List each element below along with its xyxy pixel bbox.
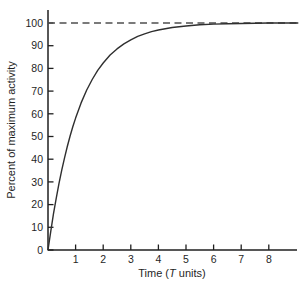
x-axis-title-part1: Time ( bbox=[138, 267, 169, 279]
y-tick-label: 10 bbox=[31, 221, 43, 233]
x-tick-label: 7 bbox=[238, 253, 244, 265]
activity-vs-time-chart: 0102030405060708090100 12345678 Percent … bbox=[0, 0, 301, 290]
y-tick-label: 30 bbox=[31, 176, 43, 188]
activity-curve bbox=[48, 23, 298, 250]
y-tick-label: 40 bbox=[31, 153, 43, 165]
x-axis-ticks: 12345678 bbox=[73, 245, 272, 266]
x-tick-label: 6 bbox=[211, 253, 217, 265]
y-tick-label: 90 bbox=[31, 39, 43, 51]
x-tick-label: 3 bbox=[128, 253, 134, 265]
y-tick-label: 0 bbox=[37, 244, 43, 256]
x-tick-label: 4 bbox=[155, 253, 161, 265]
plot-area bbox=[48, 23, 298, 250]
y-tick-label: 70 bbox=[31, 85, 43, 97]
y-tick-label: 50 bbox=[31, 130, 43, 142]
y-tick-label: 80 bbox=[31, 62, 43, 74]
y-axis-title: Percent of maximum activity bbox=[5, 61, 17, 199]
y-tick-label: 20 bbox=[31, 198, 43, 210]
chart-canvas: 0102030405060708090100 12345678 Percent … bbox=[0, 0, 301, 290]
x-tick-label: 8 bbox=[266, 253, 272, 265]
y-tick-label: 100 bbox=[25, 17, 43, 29]
y-tick-label: 60 bbox=[31, 108, 43, 120]
x-axis-title-part2: units) bbox=[176, 267, 206, 279]
x-axis-title: Time (T units) bbox=[138, 267, 205, 279]
x-tick-label: 2 bbox=[100, 253, 106, 265]
x-tick-label: 5 bbox=[183, 253, 189, 265]
x-tick-label: 1 bbox=[73, 253, 79, 265]
y-axis-ticks: 0102030405060708090100 bbox=[25, 17, 53, 256]
